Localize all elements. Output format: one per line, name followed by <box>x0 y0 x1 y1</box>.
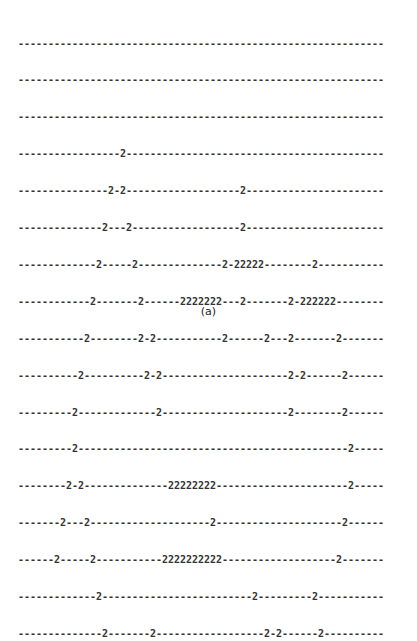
grid-row: ---------2-------------2----------------… <box>18 407 384 419</box>
grid-row: -----------2--------2-2-----------2-----… <box>18 333 384 345</box>
character-grid: ----------------------------------------… <box>18 13 384 641</box>
grid-row: ----------------------------------------… <box>18 38 384 50</box>
grid-row: -------------2-----2--------------2-2222… <box>18 259 384 271</box>
grid-row: --------------2-------2-----------------… <box>18 628 384 640</box>
grid-row: ---------2------------------------------… <box>18 443 384 455</box>
grid-row: ----------------------------------------… <box>18 111 384 123</box>
grid-row: ---------------2-2-------------------2--… <box>18 185 384 197</box>
grid-row: -----------------2----------------------… <box>18 148 384 160</box>
grid-row: -------2---2--------------------2-------… <box>18 517 384 529</box>
grid-row: ----------------------------------------… <box>18 74 384 86</box>
grid-row: ----------2----------2-2----------------… <box>18 370 384 382</box>
grid-row: ------2-----2-----------2222222222------… <box>18 554 384 566</box>
grid-row: --------2-2--------------22222222-------… <box>18 480 384 492</box>
grid-row: -------------2-------------------------2… <box>18 591 384 603</box>
grid-row: --------------2---2------------------2--… <box>18 222 384 234</box>
figure-caption: (a) <box>0 305 417 318</box>
